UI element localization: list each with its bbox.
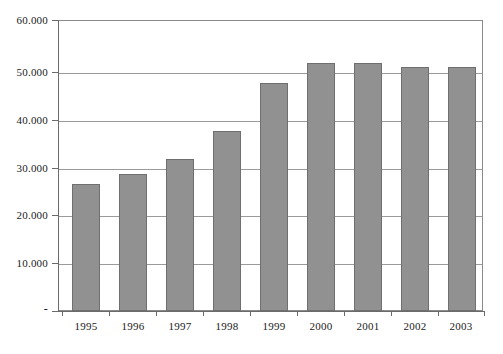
y-axis-label-10000: 10.000 xyxy=(0,258,48,269)
y-axis-tick-20000 xyxy=(52,215,58,216)
x-axis-label-2003: 2003 xyxy=(431,320,491,332)
y-axis-tick-30000 xyxy=(52,168,58,169)
y-axis-label-30000: 30.000 xyxy=(0,163,48,174)
bar-1996 xyxy=(119,174,147,311)
y-axis-tick-60000 xyxy=(52,20,58,21)
x-axis-tick-6 xyxy=(344,311,345,316)
bar-2002 xyxy=(401,67,429,311)
x-axis-line xyxy=(58,311,484,312)
x-axis-tick-0 xyxy=(62,311,63,316)
y-axis-tick-10000 xyxy=(52,263,58,264)
x-axis-tick-4 xyxy=(250,311,251,316)
x-axis-tick-9 xyxy=(484,311,485,316)
bar-1998 xyxy=(213,131,241,311)
y-axis-label-0: - xyxy=(0,304,48,315)
y-axis-label-20000: 20.000 xyxy=(0,210,48,221)
y-axis-label-60000: 60.000 xyxy=(0,15,48,26)
x-axis-tick-8 xyxy=(438,311,439,316)
x-axis-tick-1 xyxy=(109,311,110,316)
bar-2001 xyxy=(354,63,382,311)
x-axis-tick-7 xyxy=(391,311,392,316)
y-axis-line xyxy=(58,20,59,312)
y-axis-tick-40000 xyxy=(52,120,58,121)
bar-2003 xyxy=(448,67,476,311)
x-axis-tick-5 xyxy=(297,311,298,316)
y-axis-label-40000: 40.000 xyxy=(0,115,48,126)
y-axis-tick-50000 xyxy=(52,72,58,73)
bar-chart-figure: 60.000 50.000 40.000 30.000 20.000 10.00… xyxy=(0,0,503,354)
x-axis-tick-3 xyxy=(203,311,204,316)
x-axis-tick-2 xyxy=(156,311,157,316)
bar-2000 xyxy=(307,63,335,311)
bar-1999 xyxy=(260,83,288,311)
bar-1997 xyxy=(166,159,194,311)
y-axis-label-50000: 50.000 xyxy=(0,67,48,78)
bar-1995 xyxy=(72,184,100,311)
